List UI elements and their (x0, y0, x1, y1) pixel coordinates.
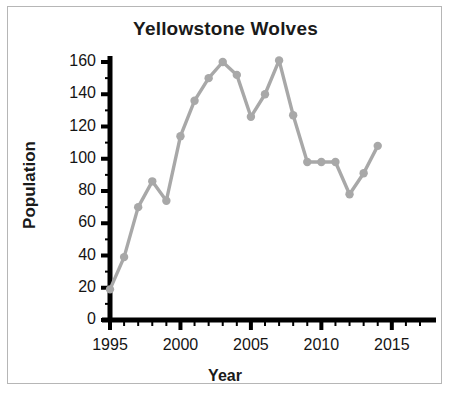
y-tick-label: 160 (50, 52, 96, 70)
x-tick-label: 2010 (291, 336, 351, 354)
y-tick-label: 40 (50, 246, 96, 264)
data-point (219, 58, 227, 66)
data-point (261, 90, 269, 98)
axis-spines (102, 56, 436, 320)
y-tick-label: 140 (50, 84, 96, 102)
y-tick-label: 120 (50, 117, 96, 135)
x-tick-label: 2015 (362, 336, 422, 354)
data-point (162, 196, 170, 204)
x-tick-label: 1995 (80, 336, 140, 354)
data-point (233, 71, 241, 79)
bottom-edge-sliver (0, 392, 60, 400)
data-point (289, 111, 297, 119)
data-point (317, 158, 325, 166)
data-point (148, 177, 156, 185)
data-point (106, 285, 114, 293)
y-tick-label: 100 (50, 149, 96, 167)
data-point (374, 142, 382, 150)
data-point (176, 132, 184, 140)
data-point (359, 169, 367, 177)
data-point (120, 253, 128, 261)
y-tick-label: 0 (50, 310, 96, 328)
data-point (247, 113, 255, 121)
y-tick-label: 20 (50, 278, 96, 296)
data-point (275, 56, 283, 64)
data-point (204, 74, 212, 82)
x-tick-label: 2000 (150, 336, 210, 354)
data-point (331, 158, 339, 166)
data-point (345, 190, 353, 198)
y-tick-label: 80 (50, 181, 96, 199)
data-point (190, 97, 198, 105)
data-point (303, 158, 311, 166)
x-tick-label: 2005 (221, 336, 281, 354)
y-tick-label: 60 (50, 213, 96, 231)
data-point (134, 203, 142, 211)
data-series-line (110, 60, 378, 289)
minor-ticks (105, 78, 420, 326)
